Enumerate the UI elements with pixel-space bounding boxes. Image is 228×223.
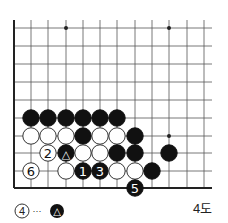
white-stone — [75, 145, 91, 161]
stone-label: 6 — [27, 164, 35, 179]
white-stone — [23, 128, 39, 144]
black-stone — [127, 128, 143, 144]
black-stone — [40, 110, 56, 126]
white-stone — [109, 163, 125, 179]
black-stone — [161, 145, 177, 161]
black-stone — [92, 110, 108, 126]
white-stone: 6 — [23, 163, 39, 179]
stone-label: 5 — [131, 181, 139, 196]
black-stone — [109, 110, 125, 126]
black-stone: 5 — [127, 180, 143, 196]
stone-label: 1 — [79, 164, 87, 179]
white-stone — [127, 163, 143, 179]
white-stone — [58, 128, 74, 144]
note-stone-label: 4 — [19, 205, 25, 217]
capture-note: 4 ··· △ — [12, 202, 72, 220]
black-stone — [127, 145, 143, 161]
black-stone — [75, 110, 91, 126]
note-target-label: △ — [53, 206, 61, 217]
star-point-icon — [64, 26, 68, 30]
stone-label: 2 — [44, 146, 52, 161]
star-point-icon — [167, 26, 171, 30]
star-point-icon — [167, 134, 171, 138]
black-stone: 1 — [75, 163, 91, 179]
stone-label: △ — [62, 148, 71, 161]
stone-label: 3 — [96, 164, 104, 179]
black-stone — [58, 110, 74, 126]
figure-label: 4도 — [193, 198, 212, 217]
black-stone: 3 — [92, 163, 108, 179]
note-separator: ··· — [33, 206, 42, 216]
white-stone — [40, 128, 56, 144]
black-stone: △ — [58, 145, 74, 161]
white-stone — [58, 163, 74, 179]
white-stone: 2 — [40, 145, 56, 161]
white-stone — [92, 145, 108, 161]
black-stone — [144, 163, 160, 179]
black-stone — [109, 145, 125, 161]
go-board-diagram: 2△6135 — [0, 0, 228, 223]
white-stone — [109, 128, 125, 144]
black-stone — [75, 128, 91, 144]
white-stone — [92, 128, 108, 144]
black-stone — [23, 110, 39, 126]
